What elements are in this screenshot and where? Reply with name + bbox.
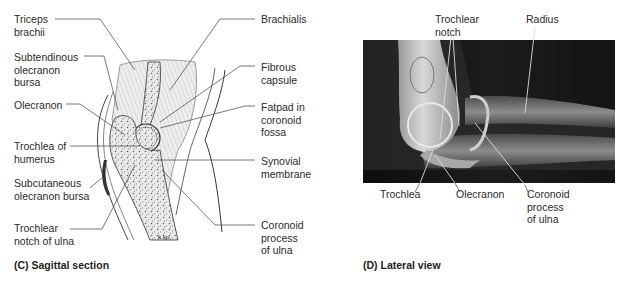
leader-coronoid bbox=[162, 170, 255, 225]
label-brachialis: Brachialis bbox=[261, 13, 307, 26]
sagittal-section-illustration bbox=[0, 0, 626, 283]
label-coronoid-process-of-ulna: Coronoid process of ulna bbox=[261, 219, 304, 257]
label-trochlea: Trochlea bbox=[380, 188, 420, 201]
leader-subtendinous bbox=[84, 56, 118, 110]
caption-sagittal-section: (C) Sagittal section bbox=[14, 259, 109, 271]
label-olecranon-xray: Olecranon bbox=[456, 188, 504, 201]
label-trochlea-of-humerus: Trochlea of humerus bbox=[14, 140, 66, 165]
label-radius: Radius bbox=[526, 13, 559, 26]
xray-image bbox=[363, 40, 615, 183]
label-fibrous-capsule: Fibrous capsule bbox=[261, 61, 297, 86]
label-coronoid-process-xray: Coronoid process of ulna bbox=[527, 188, 570, 226]
label-synovial-membrane: Synovial membrane bbox=[261, 155, 311, 180]
label-subcutaneous-olecranon-bursa: Subcutaneous olecranon bursa bbox=[14, 177, 89, 202]
forearm-outline bbox=[205, 70, 225, 232]
label-triceps-brachii: Triceps brachii bbox=[14, 13, 48, 38]
label-trochlear-notch-of-ulna: Trochlear notch of ulna bbox=[14, 222, 74, 247]
label-olecranon: Olecranon bbox=[14, 99, 62, 112]
label-subtendinous-olecranon-bursa: Subtendinous olecranon bursa bbox=[14, 51, 78, 89]
leader-subcutaneous bbox=[90, 177, 103, 188]
artist-signature: k.sp. bbox=[158, 234, 171, 241]
label-fatpad-coronoid-fossa: Fatpad in coronoid fossa bbox=[261, 101, 305, 139]
label-trochlear-notch: Trochlear notch bbox=[435, 13, 479, 38]
caption-lateral-view: (D) Lateral view bbox=[363, 259, 441, 271]
